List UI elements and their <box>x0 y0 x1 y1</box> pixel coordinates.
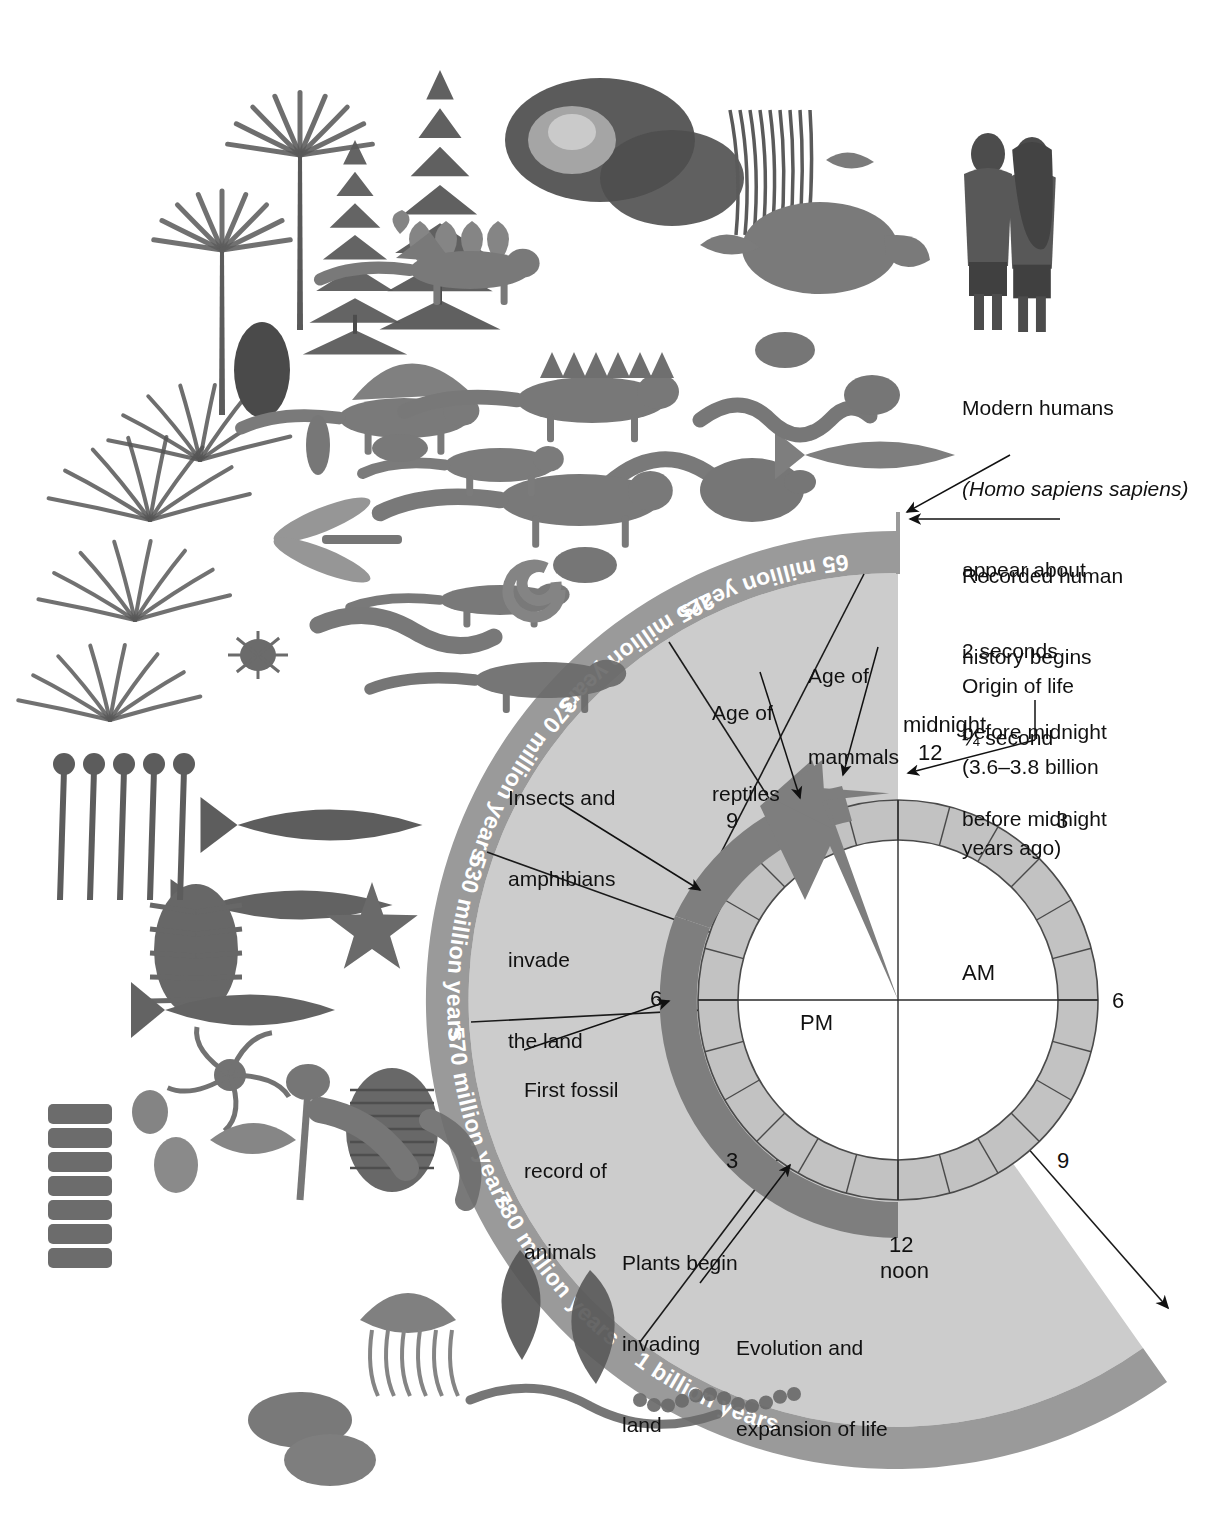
algae-segment <box>48 1248 112 1268</box>
animal-leg <box>622 516 629 548</box>
dragonfly-abdomen <box>322 535 402 544</box>
eurypterid-leg <box>150 953 196 956</box>
animal-tail <box>370 678 475 689</box>
early-mammal <box>755 332 815 368</box>
human-leg <box>974 294 984 330</box>
tube-worm <box>430 1120 471 1200</box>
animal-tail <box>380 497 500 513</box>
horsetail-cone <box>143 753 165 775</box>
jellyfish-tentacle <box>386 1330 394 1396</box>
fish-body <box>238 810 423 841</box>
fish-body <box>805 442 955 469</box>
clock-noon-number: 12 <box>889 1232 913 1258</box>
animal-head <box>587 660 626 687</box>
jellyfish-tentacle <box>450 1330 458 1396</box>
fern-frond <box>54 573 135 620</box>
palm-trunk <box>219 250 225 415</box>
animal-tail <box>350 598 440 607</box>
algae-segment <box>48 1176 112 1196</box>
snake <box>700 405 870 435</box>
cockroach <box>372 434 428 462</box>
animal-leg <box>501 281 508 305</box>
clock-midnight-number: 12 <box>918 740 942 766</box>
fish-tail <box>201 797 238 853</box>
broadleaf-canopy <box>600 130 744 226</box>
fern-frond <box>65 471 150 520</box>
horsetail-stem <box>90 770 94 900</box>
label-age-of-reptiles: Age of reptiles <box>712 645 780 861</box>
fern-frond <box>135 570 213 620</box>
horsetail-stem <box>120 770 124 900</box>
clock-tick-9-pm: 9 <box>726 808 738 834</box>
horsetail-stem <box>60 770 64 900</box>
horsetail-cone <box>113 753 135 775</box>
algae-segment <box>48 1224 112 1244</box>
stegosaur-plate <box>562 352 586 378</box>
stegosaur-plate <box>584 352 608 378</box>
algae-segment <box>48 1128 112 1148</box>
brachiopod-shell <box>210 1123 296 1154</box>
animal-leg <box>466 475 473 496</box>
label-plants-invading-land: Plants begin invading land <box>622 1195 738 1492</box>
animal-leg <box>532 516 539 548</box>
crinoid-calyx <box>286 1064 330 1100</box>
pterosaur <box>826 152 874 168</box>
rabbit-body <box>844 375 900 415</box>
cycad-cone <box>234 322 290 418</box>
label-first-fossil-record: First fossil record of animals <box>524 1022 619 1319</box>
magnolia-flower-center <box>548 114 596 150</box>
label-evolution-expansion: Evolution and expansion of life <box>736 1280 888 1496</box>
animal-tail <box>363 463 446 474</box>
jellyfish-tentacle <box>434 1330 442 1396</box>
animal-leg <box>581 691 588 713</box>
algae-segment <box>48 1200 112 1220</box>
horsetail-stem <box>150 770 154 900</box>
clock-tick-9-am: 9 <box>1057 1148 1069 1174</box>
animal-leg <box>631 414 638 443</box>
human-torso <box>964 168 1012 266</box>
turtle-head <box>784 470 816 494</box>
fern-frond <box>150 467 232 520</box>
jellyfish-tentacle <box>418 1330 426 1396</box>
stegosaur-plate <box>606 352 630 378</box>
human-garment <box>969 262 1007 296</box>
animal-head <box>506 249 540 278</box>
animal-leg <box>463 609 470 628</box>
mastodon-body <box>742 202 898 294</box>
clock-pm-label: PM <box>800 1010 833 1036</box>
eurypterid-leg <box>150 977 196 978</box>
clock-am-label: AM <box>962 960 995 986</box>
animal-head <box>637 374 679 409</box>
fern-frond <box>110 672 184 720</box>
animal-head <box>628 471 673 511</box>
sponge <box>154 1137 198 1193</box>
eurypterid-leg <box>196 977 242 978</box>
algae-segment <box>48 1152 112 1172</box>
eurypterid-leg <box>196 953 242 956</box>
horsetail-cone <box>83 753 105 775</box>
palm-trunk <box>297 155 303 330</box>
animal-head <box>533 446 564 472</box>
stegosaur-plate <box>650 352 674 378</box>
animal-leg <box>547 414 554 443</box>
jellyfish-tentacle <box>370 1330 378 1396</box>
horsetail-cone <box>173 753 195 775</box>
animal-leg <box>365 430 372 455</box>
human-leg <box>1018 296 1028 332</box>
horsetail-cone <box>53 753 75 775</box>
animal-leg <box>433 281 440 305</box>
callout-origin-of-life: Origin of life (3.6–3.8 billion years ag… <box>962 618 1099 915</box>
label-age-of-mammals: Age of mammals <box>808 608 899 824</box>
human-leg <box>1036 296 1046 332</box>
animal-leg <box>503 691 510 713</box>
stegosaur-plate <box>540 352 564 378</box>
human-garment <box>1013 265 1051 299</box>
jellyfish-bell <box>360 1293 456 1333</box>
ediacaran-disc <box>284 1434 376 1486</box>
clock-tick-6-am: 6 <box>1112 988 1124 1014</box>
figure-canvas: 65 million years 225 million years 370 m… <box>0 0 1223 1516</box>
butterfly <box>392 210 409 234</box>
human-leg <box>992 294 1002 330</box>
clock-tick-3-pm: 3 <box>726 1148 738 1174</box>
stegosaur-plate <box>628 352 652 378</box>
